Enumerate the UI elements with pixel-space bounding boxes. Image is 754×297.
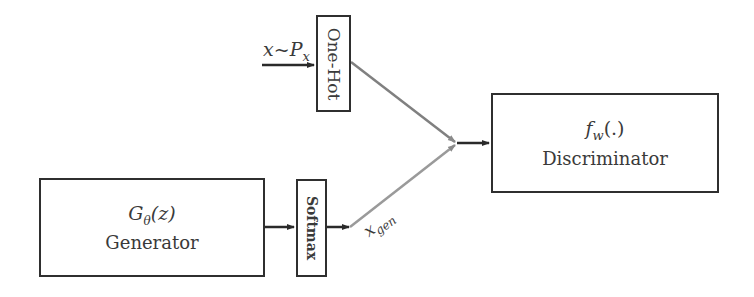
one-hot-box: One-Hot	[316, 15, 351, 112]
softmax-box: Softmax	[296, 179, 327, 277]
input-dist: P	[290, 38, 303, 60]
input-var: x	[263, 38, 274, 60]
generator-arg: (z)	[151, 202, 176, 224]
input-op: ~	[274, 38, 290, 60]
discriminator-label: Discriminator	[542, 148, 668, 170]
generator-label: Generator	[105, 232, 198, 254]
input-distribution-label: x~Px	[263, 38, 310, 68]
discriminator-symbol: f	[585, 117, 592, 139]
generator-box: Gθ(z) Generator	[39, 178, 265, 277]
xgen-to-merge-line	[350, 145, 455, 227]
input-dist-sub: x	[302, 49, 309, 64]
discriminator-box: fw(.) Discriminator	[491, 93, 719, 193]
generator-param: θ	[144, 213, 151, 227]
discriminator-arg: (.)	[604, 117, 625, 139]
discriminator-param: w	[593, 128, 604, 143]
softmax-label: Softmax	[304, 196, 320, 260]
generator-math: Gθ(z)	[128, 201, 175, 233]
one-hot-label: One-Hot	[323, 27, 345, 100]
onehot-to-merge-line	[351, 62, 455, 142]
generator-symbol: G	[128, 202, 143, 224]
discriminator-math: fw(.)	[585, 116, 624, 148]
